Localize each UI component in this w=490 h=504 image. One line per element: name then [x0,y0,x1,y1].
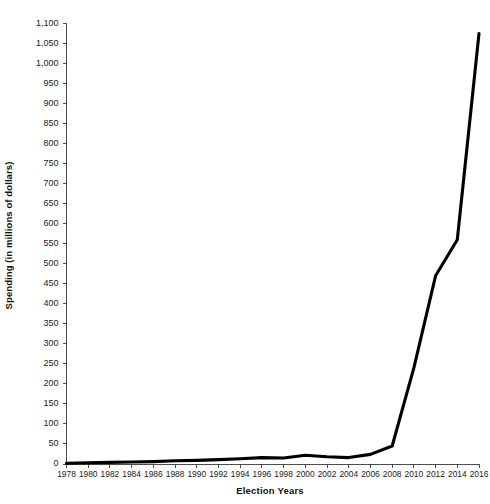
spending-line-series [67,34,480,464]
plot-area: 0501001502002503003504004505005506006507… [0,0,490,504]
x-tick-label: 2002 [318,469,337,479]
x-tick-label: 1998 [274,469,293,479]
y-tick-label: 200 [43,378,58,388]
y-tick-label: 100 [43,418,58,428]
y-tick-label: 500 [43,258,58,268]
y-tick-label: 1,100 [36,18,59,28]
x-tick-label: 2004 [339,469,358,479]
x-tick-label: 1996 [253,469,272,479]
x-tick-label: 2016 [470,469,489,479]
y-tick-label: 1,050 [36,38,59,48]
x-tick-label: 1982 [101,469,120,479]
line-chart-svg: 0501001502002503003504004505005506006507… [0,0,490,504]
y-tick-label: 750 [43,158,58,168]
y-tick-label: 600 [43,218,58,228]
x-tick-label: 1992 [209,469,228,479]
x-tick-label: 2010 [405,469,424,479]
y-tick-label: 300 [43,338,58,348]
x-axis-title: Election Years [60,485,480,496]
y-tick-label: 650 [43,198,58,208]
x-tick-label: 1978 [57,469,76,479]
y-tick-label: 50 [48,438,58,448]
x-tick-label: 1988 [166,469,185,479]
y-tick-label: 1,000 [36,58,59,68]
x-tick-label: 2014 [448,469,467,479]
y-tick-label: 250 [43,358,58,368]
x-tick-label: 1994 [231,469,250,479]
y-tick-label: 550 [43,238,58,248]
x-tick-label: 1980 [79,469,98,479]
y-tick-label: 150 [43,398,58,408]
y-tick-label: 450 [43,278,58,288]
y-tick-label: 850 [43,118,58,128]
y-tick-label: 400 [43,298,58,308]
y-tick-label: 0 [53,458,58,468]
y-tick-label: 700 [43,178,58,188]
y-axis-ticks: 0501001502002503003504004505005506006507… [36,18,67,469]
x-tick-label: 2000 [296,469,315,479]
x-tick-label: 2012 [426,469,445,479]
y-tick-label: 950 [43,78,58,88]
y-tick-label: 800 [43,138,58,148]
x-tick-label: 2006 [361,469,380,479]
x-tick-label: 1986 [144,469,163,479]
y-tick-label: 350 [43,318,58,328]
x-tick-label: 2008 [383,469,402,479]
chart-container: Spending (in millions of dollars) 050100… [0,0,490,504]
x-tick-label: 1984 [122,469,141,479]
x-axis-ticks: 1978198019821984198619881990199219941996… [57,464,488,479]
x-tick-label: 1990 [187,469,206,479]
y-tick-label: 900 [43,98,58,108]
